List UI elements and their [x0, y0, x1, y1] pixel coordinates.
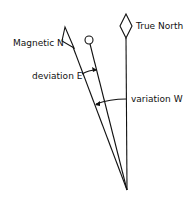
- true-north-label: True North: [135, 21, 183, 31]
- magnetic-north-line: [73, 47, 127, 190]
- true-north-line: [126, 38, 127, 190]
- compass-north-line: [90, 44, 127, 190]
- compass-diagram: True North Magnetic N deviation E variat…: [0, 0, 196, 202]
- variation-label: variation W: [131, 94, 183, 104]
- variation-arc: [96, 99, 126, 104]
- variation-arrow-icon: [95, 101, 100, 106]
- compass-north-circle-icon: [85, 36, 93, 44]
- deviation-label: deviation E: [32, 71, 83, 81]
- true-north-diamond-icon: [120, 14, 132, 38]
- magnetic-north-label: Magnetic N: [13, 38, 64, 48]
